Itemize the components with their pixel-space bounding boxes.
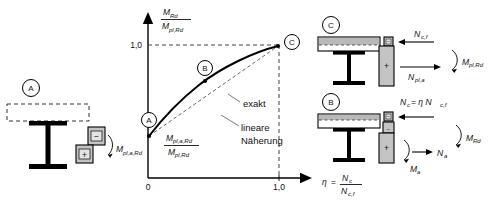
x-axis-title-denominator: N <box>341 186 348 196</box>
detail-a-marker-label: A <box>28 84 34 93</box>
detail-a-slab-dashed <box>7 104 89 121</box>
detail-c-marker-label: C <box>328 21 334 30</box>
detail-b-moment-label-sub: Rd <box>473 138 481 144</box>
series-label-naeherung-line2: Näherung <box>241 135 283 146</box>
detail-a-group: A − + M pl,a,Rd <box>7 80 143 170</box>
y-axis-title-denominator-sub: pl,Rd <box>168 27 184 33</box>
point-a-ratio-label: M pl,a,Rd M pl,Rd <box>164 133 199 158</box>
exakt-leader-line <box>228 94 240 102</box>
chart-marker-c-label: C <box>289 38 295 47</box>
detail-c-force-ncf: N c,f <box>398 29 434 45</box>
x-axis-title-equals: = <box>331 177 336 187</box>
chart-marker-b-label: B <box>202 64 207 73</box>
figure-canvas: A − + M pl,a,Rd <box>0 0 502 205</box>
detail-b-steel-section <box>333 128 365 162</box>
detail-b-stress-sign-minus-mid: − <box>387 126 391 132</box>
detail-b-stress-sign-minus-top: − <box>387 113 391 119</box>
y-tick-label-1: 1,0 <box>130 40 142 50</box>
detail-a-stress-blocks: − + <box>76 127 105 163</box>
detail-b-force-nc-equation-sub: c,f <box>440 102 448 108</box>
detail-c-force-npla-label: N <box>408 72 415 82</box>
detail-b-force-nc-label: N <box>400 97 407 107</box>
detail-c-force-ncf-sub: c,f <box>421 34 429 40</box>
detail-b-moment-inner: M a <box>404 140 421 175</box>
x-axis-title-denominator-sub: c,f <box>348 191 356 197</box>
detail-c-force-ncf-label: N <box>414 29 421 39</box>
detail-b-force-na-sub: a <box>444 153 448 159</box>
x-tick-label-1: 1,0 <box>273 182 285 192</box>
detail-b-slab <box>318 114 380 128</box>
y-axis-title: M Rd M pl,Rd <box>161 7 191 33</box>
detail-b-stress-sign-plus: + <box>384 143 389 153</box>
detail-c-steel-section <box>333 51 365 85</box>
detail-b-stress-blocks: − − + <box>379 112 394 163</box>
chart-marker-a-label: A <box>146 116 152 125</box>
detail-c-moment: M pl,Rd <box>452 50 484 73</box>
y-axis-title-numerator-sub: Rd <box>170 13 178 19</box>
stress-sign-minus: − <box>94 131 99 141</box>
series-label-exakt: exakt <box>243 98 266 109</box>
data-point-b <box>203 79 207 83</box>
data-point-c <box>276 44 280 48</box>
detail-b-moment-inner-sub: a <box>417 169 421 175</box>
x-axis-title-numerator: N <box>342 173 349 183</box>
detail-c-force-npla: N pl,a <box>400 64 441 83</box>
detail-b-force-nc: N c = η N c,f <box>398 97 448 120</box>
detail-b-force-na: N a <box>412 148 448 159</box>
x-axis-title: η = N c N c,f <box>322 173 362 197</box>
stress-sign-plus: + <box>82 150 87 160</box>
series-label-naeherung-line1: lineare <box>241 122 270 133</box>
x-axis-title-numerator-sub: c <box>349 178 352 184</box>
detail-c-stress-sign-plus: + <box>384 61 389 71</box>
x-axis-arrowhead <box>300 173 312 183</box>
detail-a-steel-section <box>29 121 67 169</box>
detail-c-force-npla-sub: pl,a <box>414 77 425 83</box>
detail-c-slab <box>318 37 380 51</box>
data-point-a <box>147 134 151 138</box>
detail-c-moment-label-sub: pl,Rd <box>468 62 484 68</box>
detail-a-moment: M pl,a,Rd <box>108 135 143 158</box>
detail-b-force-nc-sub: c <box>407 102 410 108</box>
detail-c-group: C − + N c,f <box>318 17 484 87</box>
point-a-ratio-denominator-sub: pl,Rd <box>174 152 190 158</box>
detail-b-marker-label: B <box>328 98 333 107</box>
detail-b-group: B − − + N c = η N <box>318 94 481 176</box>
detail-c-stress-blocks: − + <box>379 37 394 86</box>
detail-b-force-na-label: N <box>437 148 444 158</box>
detail-c-stress-sign-minus: − <box>387 38 391 44</box>
detail-b-moment: M Rd <box>456 125 481 148</box>
point-a-ratio-numerator-sub: pl,a,Rd <box>172 138 193 144</box>
y-axis-arrowhead <box>143 12 153 24</box>
naeherung-leader-line <box>221 115 239 126</box>
detail-a-moment-label-sub: pl,a,Rd <box>122 150 143 156</box>
detail-b-force-nc-equation: = η N <box>411 97 432 107</box>
x-axis-title-eta: η <box>322 177 327 187</box>
x-tick-label-0: 0 <box>146 182 151 192</box>
